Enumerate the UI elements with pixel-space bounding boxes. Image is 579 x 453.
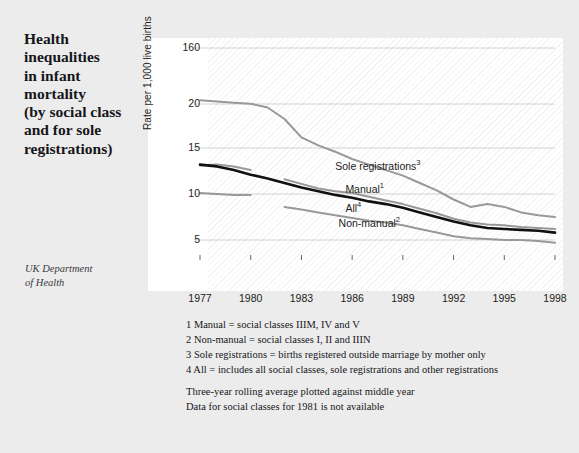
notes-block: Three-year rolling average plotted again…: [186, 385, 566, 415]
x-tick-label: 1989: [380, 292, 426, 304]
footnote-item: 1 Manual = social classes IIIM, IV and V: [186, 318, 566, 333]
y-axis-label: Rate per 1,000 live births: [142, 0, 153, 130]
y-axis-ticks: 1602015105: [148, 38, 200, 291]
series-label-all: All4: [345, 200, 361, 214]
x-tick-label: 1986: [329, 292, 375, 304]
y-tick-label: 15: [166, 141, 200, 153]
series-label-text: All: [345, 201, 357, 213]
footnotes-block: 1 Manual = social classes IIIM, IV and V…: [186, 318, 566, 378]
chart-panel: 1602015105 Rate per 1,000 live births So…: [148, 38, 563, 291]
page-title: Health inequalities in infant mortality …: [24, 30, 144, 158]
source-attribution: UK Department of Health: [25, 262, 145, 289]
series-label-manual: Manual1: [345, 181, 384, 195]
x-tick-label: 1983: [278, 292, 324, 304]
series-label-footnote-marker: 4: [357, 200, 361, 209]
source-line: of Health: [25, 276, 145, 290]
y-tick-label: 20: [166, 97, 200, 109]
footnote-item: 3 Sole registrations = births registered…: [186, 348, 566, 363]
title-line: registrations): [24, 140, 144, 158]
footnote-item: 2 Non-manual = social classes I, II and …: [186, 333, 566, 348]
series-label-text: Manual: [345, 183, 379, 195]
x-axis-ticks: 19771980198319861989199219951998: [148, 292, 563, 310]
title-line: Health: [24, 30, 144, 48]
x-tick-label: 1977: [177, 292, 223, 304]
x-tick-label: 1980: [228, 292, 274, 304]
title-line: in infant: [24, 67, 144, 85]
title-line: (by social class: [24, 103, 144, 121]
y-tick-label: 160: [166, 41, 200, 53]
y-tick-label: 5: [166, 233, 200, 245]
series-label-footnote-marker: 1: [380, 181, 384, 190]
title-line: inequalities: [24, 48, 144, 66]
series-line: [285, 179, 556, 229]
title-line: mortality: [24, 85, 144, 103]
x-tick-label: 1998: [532, 292, 578, 304]
series-label-footnote-marker: 2: [396, 215, 400, 224]
note-item: Three-year rolling average plotted again…: [186, 385, 566, 400]
series-line: [200, 193, 251, 195]
x-tick-label: 1995: [481, 292, 527, 304]
source-line: UK Department: [25, 262, 145, 276]
series-label-footnote-marker: 3: [416, 158, 420, 167]
series-label-sole-registrations: Sole registrations3: [335, 158, 420, 172]
footnote-item: 4 All = includes all social classes, sol…: [186, 363, 566, 378]
title-line: and for sole: [24, 121, 144, 139]
series-label-text: Non-manual: [339, 216, 396, 228]
series-label-non-manual: Non-manual2: [339, 215, 400, 229]
page-root: Health inequalities in infant mortality …: [0, 0, 579, 453]
x-tick-label: 1992: [431, 292, 477, 304]
series-label-text: Sole registrations: [335, 160, 416, 172]
note-item: Data for social classes for 1981 is not …: [186, 400, 566, 415]
y-tick-label: 10: [166, 187, 200, 199]
